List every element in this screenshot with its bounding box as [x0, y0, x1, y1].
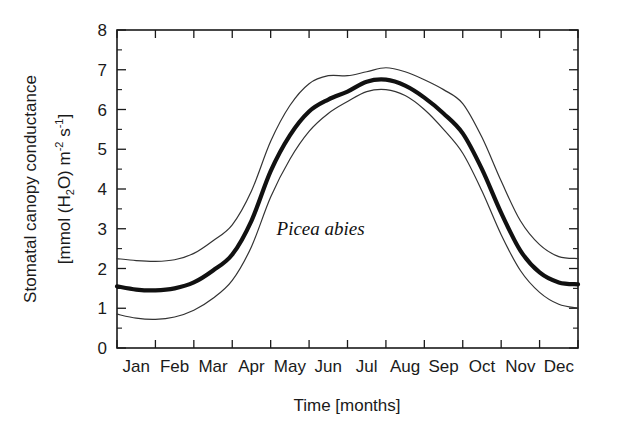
y-tick-label: 6	[98, 101, 107, 120]
x-tick-label: Sep	[428, 357, 458, 376]
x-tick-label: Apr	[238, 357, 265, 376]
y-axis-tick-labels: 012345678	[98, 21, 107, 358]
x-tick-label: Nov	[505, 357, 536, 376]
y-tick-label: 4	[98, 180, 107, 199]
y-title-prefix: [mmol (H	[55, 195, 74, 264]
x-tick-label: Jan	[122, 357, 149, 376]
series-line-mean	[117, 79, 578, 290]
y-axis-title-line1: Stomatal canopy conductance	[21, 75, 40, 303]
y-tick-label: 7	[98, 61, 107, 80]
y-title-sup1: -2	[53, 142, 65, 152]
x-tick-label: Oct	[469, 357, 496, 376]
y-tick-label: 2	[98, 260, 107, 279]
right-axis-ticks	[569, 30, 578, 348]
x-tick-label: Mar	[198, 357, 228, 376]
x-tick-label: Feb	[160, 357, 189, 376]
plot-frame	[117, 30, 578, 348]
y-axis-ticks	[117, 30, 126, 348]
y-title-sup2: -1	[53, 119, 65, 129]
y-title-mid: O) m	[55, 151, 74, 189]
y-tick-label: 5	[98, 140, 107, 159]
y-tick-label: 0	[98, 339, 107, 358]
y-axis-title-line2: [mmol (H2O) m-2 s-1]	[53, 114, 76, 264]
y-title-mid2: s	[55, 128, 74, 141]
x-tick-label: Jun	[315, 357, 342, 376]
x-tick-label: May	[274, 357, 307, 376]
plot-border	[117, 30, 578, 348]
y-title-suffix: ]	[55, 114, 74, 119]
x-tick-label: Dec	[544, 357, 575, 376]
species-annotation: Picea abies	[276, 218, 365, 239]
y-tick-label: 3	[98, 220, 107, 239]
figure-container: 012345678 JanFebMarAprMayJunJulAugSepOct…	[0, 0, 617, 425]
x-axis-ticks	[117, 340, 578, 348]
y-tick-label: 1	[98, 299, 107, 318]
top-axis-ticks	[117, 30, 578, 38]
data-series-group	[117, 68, 578, 320]
x-tick-label: Aug	[390, 357, 420, 376]
x-axis-tick-labels: JanFebMarAprMayJunJulAugSepOctNovDec	[122, 357, 574, 376]
x-axis-title: Time [months]	[293, 396, 400, 415]
chart-svg: 012345678 JanFebMarAprMayJunJulAugSepOct…	[0, 0, 617, 425]
x-tick-label: Jul	[356, 357, 378, 376]
y-tick-label: 8	[98, 21, 107, 40]
